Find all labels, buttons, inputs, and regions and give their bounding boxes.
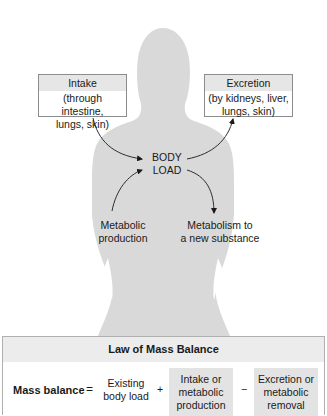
term3-line3: removal [254, 399, 318, 412]
excretion-box: Excretion (by kidneys, liver, lungs, ski… [204, 74, 293, 117]
minus-sign: − [239, 383, 249, 396]
equals-sign: = [86, 383, 93, 396]
body-load-label: BODY LOAD [145, 151, 189, 176]
mass-balance-equation: Mass balance = Existing body load + Inta… [3, 371, 324, 416]
term3-line1: Excretion or [254, 373, 318, 386]
excretion-detail-line1: (by kidneys, liver, [207, 92, 290, 105]
law-of-mass-balance-panel: Law of Mass Balance Mass balance = Exist… [2, 336, 325, 415]
excretion-title: Excretion [205, 75, 292, 91]
term2-line1: Intake or [169, 373, 233, 386]
metabolic-production-line1: Metabolic [88, 219, 158, 232]
excretion-detail-line2: lungs, skin) [207, 105, 290, 118]
term2-line3: production [169, 399, 233, 412]
metabolic-production-line2: production [88, 232, 158, 245]
term2-line2: metabolic [169, 386, 233, 399]
existing-body-load-term: Existing body load [100, 377, 152, 403]
body-load-line2: LOAD [145, 164, 189, 177]
body-load-line1: BODY [145, 151, 189, 164]
term3-line2: metabolic [254, 386, 318, 399]
term1-line1: Existing [100, 377, 152, 390]
term1-line2: body load [100, 390, 152, 403]
plus-sign: + [156, 383, 164, 396]
excretion-or-removal-term: Excretion or metabolic removal [254, 368, 318, 416]
equation-lhs: Mass balance [13, 384, 85, 397]
intake-detail-line2: lungs, skin) [41, 118, 124, 131]
intake-or-production-term: Intake or metabolic production [169, 368, 233, 416]
metabolism-new-line1: Metabolism to [170, 219, 270, 232]
metabolism-new-line2: a new substance [170, 232, 270, 245]
metabolic-production-label: Metabolic production [88, 219, 158, 244]
intake-detail-line1: (through intestine, [41, 92, 124, 118]
law-panel-title: Law of Mass Balance [3, 337, 324, 362]
metabolism-new-substance-label: Metabolism to a new substance [170, 219, 270, 244]
intake-title: Intake [39, 75, 126, 91]
intake-box: Intake (through intestine, lungs, skin) [38, 74, 127, 117]
